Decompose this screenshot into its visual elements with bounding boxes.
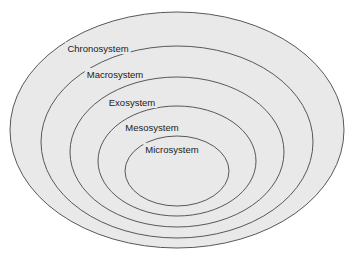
nested-ellipses-canvas: Chronosystem Macrosystem Exosystem Mesos…: [0, 0, 355, 257]
ring-label-exosystem: Exosystem: [109, 97, 156, 108]
ring-label-mesosystem: Mesosystem: [125, 122, 178, 133]
ring-label-microsystem: Microsystem: [145, 144, 198, 155]
ring-label-chronosystem: Chronosystem: [67, 43, 128, 54]
ecological-systems-diagram: Chronosystem Macrosystem Exosystem Mesos…: [0, 0, 355, 257]
ring-label-macrosystem: Macrosystem: [87, 69, 144, 80]
